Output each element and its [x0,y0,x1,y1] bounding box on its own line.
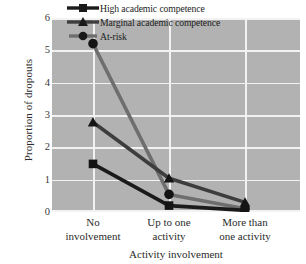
data-point [164,190,174,200]
x-tick-line: More than [197,216,293,230]
y-tick-label: 3 [36,110,50,121]
data-point [241,206,250,212]
y-tick-label: 2 [36,142,50,153]
y-axis-title: Proportion of dropouts [22,20,34,200]
legend-item: At-risk [66,29,248,43]
y-tick-label: 6 [36,13,50,24]
data-point [89,160,98,169]
legend-label: At-risk [100,31,127,42]
x-tick-label-2: More than one activity [197,216,293,243]
plot-area [52,18,300,212]
chart-figure: Proportion of dropouts 6 5 4 3 2 1 0 [0,0,306,264]
series-line-2 [93,44,245,209]
triangle-marker-icon [66,15,100,29]
legend-label: High academic competence [100,3,205,14]
x-axis-title: Activity involvement [52,248,300,260]
legend: High academic competence Marginal academ… [66,1,248,43]
square-marker-icon [66,1,100,15]
y-tick-label: 5 [36,45,50,56]
x-tick-line: one activity [197,230,293,244]
y-tick-label: 1 [36,174,50,185]
legend-label: Marginal academic competence [100,17,220,28]
legend-item: Marginal academic competence [66,15,248,29]
series-canvas [52,18,300,212]
circle-marker-icon [66,29,100,43]
y-tick-label: 4 [36,77,50,88]
data-point [165,201,174,210]
data-point [88,117,98,126]
legend-item: High academic competence [66,1,248,15]
